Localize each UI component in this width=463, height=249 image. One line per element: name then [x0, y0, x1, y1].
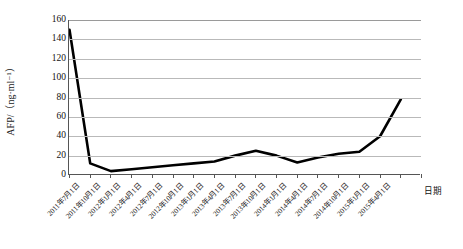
- x-tick-mark: [380, 174, 381, 178]
- x-tick-mark: [110, 174, 111, 178]
- x-tick-mark: [235, 174, 236, 178]
- gridline-140: [69, 39, 421, 40]
- gridline-40: [69, 136, 421, 137]
- x-tick-label-text: 2015年1月1日: [334, 180, 371, 218]
- y-tick-40: 40: [57, 131, 67, 140]
- x-tick-label-text: 2014年7月1日: [292, 180, 329, 218]
- x-tick-label-text: 2013年1月1日: [168, 180, 205, 218]
- x-tick-label-text: 2014年4月1日: [271, 180, 308, 218]
- x-tick-mark: [317, 174, 318, 178]
- gridline-160: [69, 20, 421, 21]
- gridline-100: [69, 78, 421, 79]
- x-tick-label-text: 2012年10月1日: [145, 180, 185, 221]
- x-axis-title: 日期: [424, 184, 442, 196]
- x-tick-mark: [152, 174, 153, 178]
- x-tick-mark: [193, 174, 194, 178]
- x-tick-label-text: 2013年10月1日: [227, 180, 267, 221]
- y-axis-title: AFP/（ng·ml⁻¹）: [2, 0, 16, 34]
- x-tick-mark: [173, 174, 174, 178]
- y-tick-140: 140: [52, 34, 66, 43]
- gridline-80: [69, 98, 421, 99]
- gridline-120: [69, 59, 421, 60]
- x-tick-mark: [214, 174, 215, 178]
- y-tick-160: 160: [52, 15, 66, 24]
- x-tick-label-text: 2015年4月1日: [354, 180, 391, 218]
- y-tick-20: 20: [57, 151, 67, 160]
- x-tick-label-text: 2013年7月1日: [209, 180, 246, 218]
- x-tick-mark: [90, 174, 91, 178]
- x-tick-label-text: 2012年1月1日: [85, 180, 122, 218]
- x-tick-label-text: 2012年4月1日: [106, 180, 143, 218]
- x-tick-mark: [276, 174, 277, 178]
- x-tick-mark: [400, 174, 401, 178]
- x-tick-label-text: 2014年1月1日: [251, 180, 288, 218]
- y-tick-100: 100: [52, 73, 66, 82]
- x-tick-label-text: 2011年10月1日: [62, 180, 102, 220]
- y-tick-0: 0: [61, 170, 66, 179]
- x-tick-mark: [297, 174, 298, 178]
- afp-line-chart: AFP/（ng·ml⁻¹） 020406080100120140160 2011…: [0, 0, 463, 249]
- x-tick-mark: [255, 174, 256, 178]
- x-tick-label-text: 2014年10月1日: [310, 180, 350, 221]
- y-axis-tick-labels: 020406080100120140160: [26, 0, 66, 249]
- gridline-60: [69, 117, 421, 118]
- x-tick-mark: [338, 174, 339, 178]
- x-tick-label-text: 2013年4月1日: [189, 180, 226, 218]
- x-tick-mark: [69, 174, 70, 178]
- plot-area: [68, 20, 420, 175]
- gridline-20: [69, 156, 421, 157]
- x-tick-mark: [131, 174, 132, 178]
- x-tick-mark: [359, 174, 360, 178]
- x-tick-mark: [421, 174, 422, 178]
- y-tick-60: 60: [57, 112, 67, 121]
- x-tick-label-text: 2012年7月1日: [126, 180, 163, 218]
- y-tick-120: 120: [52, 54, 66, 63]
- y-tick-80: 80: [57, 93, 67, 102]
